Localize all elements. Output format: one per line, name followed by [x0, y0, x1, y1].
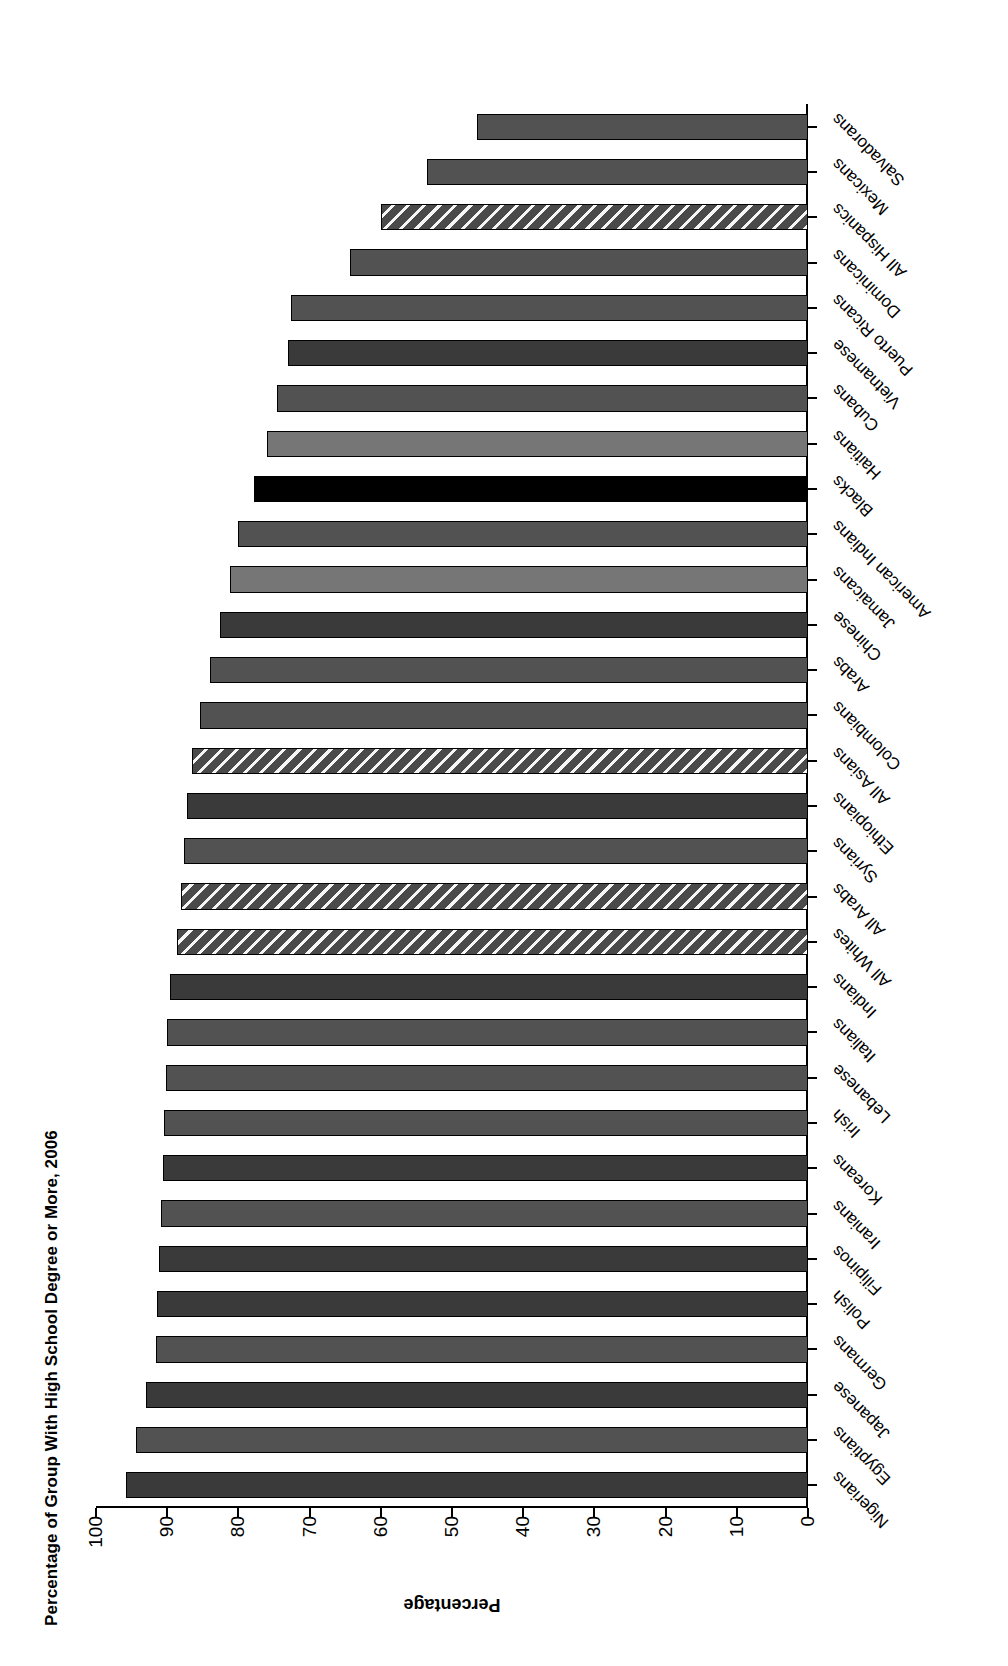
- bar: [291, 295, 808, 321]
- bar: [184, 838, 808, 864]
- bar: [220, 612, 808, 638]
- category-tick: [808, 1213, 817, 1215]
- bar: [381, 204, 808, 230]
- value-tick-label: 40: [512, 1516, 534, 1537]
- category-tick: [808, 1122, 817, 1124]
- category-tick: [808, 579, 817, 581]
- bar: [159, 1246, 808, 1272]
- category-tick: [808, 896, 817, 898]
- bar: [164, 1110, 808, 1136]
- category-tick: [808, 1167, 817, 1169]
- category-tick: [808, 941, 817, 943]
- category-tick: [808, 352, 817, 354]
- category-tick: [808, 986, 817, 988]
- bar: [238, 521, 808, 547]
- bar: [277, 385, 808, 411]
- bar: [288, 340, 808, 366]
- category-tick: [808, 1303, 817, 1305]
- value-tick-label: 70: [299, 1516, 321, 1537]
- category-tick: [808, 216, 817, 218]
- value-tick-label: 30: [583, 1516, 605, 1537]
- category-tick: [808, 262, 817, 264]
- category-tick: [808, 1258, 817, 1260]
- category-tick: [808, 714, 817, 716]
- bar: [156, 1336, 808, 1362]
- category-tick: [808, 805, 817, 807]
- value-tick-label: 20: [655, 1516, 677, 1537]
- category-tick: [808, 397, 817, 399]
- value-tick-label: 60: [370, 1516, 392, 1537]
- category-tick: [808, 126, 817, 128]
- category-tick: [808, 1394, 817, 1396]
- bar: [267, 431, 808, 457]
- bar: [163, 1155, 808, 1181]
- value-tick-label: 0: [797, 1516, 819, 1527]
- category-tick: [808, 669, 817, 671]
- bar: [166, 1065, 808, 1091]
- bar: [146, 1382, 808, 1408]
- category-tick: [808, 1077, 817, 1079]
- category-tick: [808, 1348, 817, 1350]
- value-tick-label: 10: [726, 1516, 748, 1537]
- category-tick: [808, 443, 817, 445]
- category-tick: [808, 760, 817, 762]
- category-tick: [808, 1439, 817, 1441]
- bar: [167, 1019, 808, 1045]
- figure-rotator: Percentage of Group With High School Deg…: [0, 0, 1008, 1666]
- page-title: Percentage of Group With High School Deg…: [42, 1130, 62, 1626]
- value-tick-label: 90: [156, 1516, 178, 1537]
- bar: [136, 1427, 808, 1453]
- category-tick-label-text: Irish: [828, 1105, 865, 1142]
- value-tick-label: 50: [441, 1516, 463, 1537]
- category-tick: [808, 1031, 817, 1033]
- bar: [230, 566, 808, 592]
- bar: [177, 929, 808, 955]
- category-tick: [808, 624, 817, 626]
- category-tick: [808, 1484, 817, 1486]
- category-tick: [808, 307, 817, 309]
- value-tick-label: 100: [85, 1516, 107, 1548]
- category-tick: [808, 533, 817, 535]
- value-tick-label: 80: [227, 1516, 249, 1537]
- bar: [126, 1472, 808, 1498]
- bar: [350, 249, 808, 275]
- bar: [210, 657, 808, 683]
- bar: [187, 793, 808, 819]
- bar: [427, 159, 808, 185]
- bar: [477, 114, 808, 140]
- category-tick: [808, 171, 817, 173]
- value-axis-title: Percentage: [403, 1594, 500, 1615]
- bar: [254, 476, 808, 502]
- category-tick: [808, 488, 817, 490]
- bar: [161, 1200, 808, 1226]
- bar: [200, 702, 808, 728]
- category-tick-label-text: Italians: [828, 1014, 880, 1066]
- bar: [192, 748, 808, 774]
- bar: [170, 974, 808, 1000]
- category-tick: [808, 850, 817, 852]
- chart-figure: Percentage of Group With High School Deg…: [0, 0, 1008, 1666]
- plot-area: Percentage 0102030405060708090100 Nigeri…: [96, 104, 808, 1508]
- bar: [181, 883, 808, 909]
- bar: [157, 1291, 808, 1317]
